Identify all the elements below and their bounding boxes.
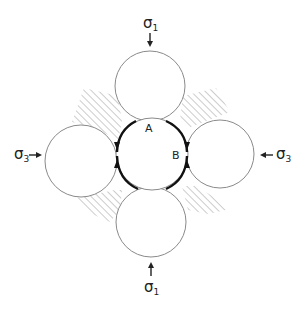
hatch-lower-right xyxy=(182,186,226,214)
grain-bottom xyxy=(116,187,186,257)
arrow-left-icon xyxy=(260,152,273,158)
sigma3-right-label: σ3 xyxy=(276,145,291,164)
sigma1-top-label: σ1 xyxy=(143,14,158,33)
grain-top xyxy=(115,51,185,121)
arrow-up-icon xyxy=(148,262,154,276)
arrow-right-icon xyxy=(29,152,42,158)
sigma3-left-label: σ3 xyxy=(14,145,29,164)
sigma1-bottom-label: σ1 xyxy=(144,278,159,297)
arrow-down-icon xyxy=(147,33,153,47)
grain-diagram: A B σ1 σ1 σ3 σ3 xyxy=(0,0,302,309)
grain-right xyxy=(186,120,254,188)
point-label-a: A xyxy=(145,122,153,135)
point-label-b: B xyxy=(172,149,180,162)
grain-left xyxy=(45,125,117,197)
